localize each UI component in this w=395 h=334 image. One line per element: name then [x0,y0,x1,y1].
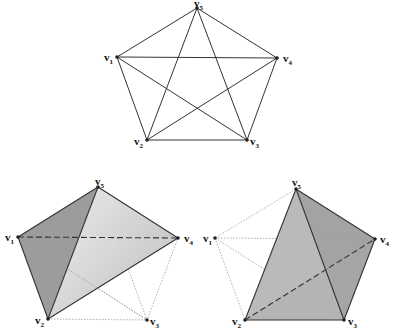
vertex-dot [176,236,180,240]
vertex-label: v1 [104,51,114,66]
vertex-label: v3 [348,315,358,330]
vertex-dot [115,55,119,59]
tetrahedron-right [215,189,375,320]
vertex-dot [342,318,346,322]
vertex-dot [275,56,279,60]
vertex-label: v2 [134,135,144,150]
vertex-label: v2 [232,315,242,330]
vertex-dot [145,138,149,142]
vertex-label: v2 [35,314,45,329]
vertex-dot [16,235,20,239]
vertex-label: v4 [184,232,194,247]
vertex-dot [373,237,377,241]
vertex-label: v3 [250,135,260,150]
vertex-dot [243,318,247,322]
vertex-dot [145,318,149,322]
vertex-dot [245,138,249,142]
vertex-label: v5 [292,176,302,191]
vertex-label: v3 [150,315,160,330]
vertex-dot [213,236,217,240]
vertex-label: v1 [5,231,15,246]
vertex-label: v1 [203,232,213,247]
diagram-canvas: v1v2v3v4v5v1v2v3v4v5v1v2v3v4v5 [0,0,395,334]
vertex-label: v4 [283,52,293,67]
complete-graph-k5 [117,8,277,140]
vertex-label: v5 [194,0,204,12]
vertex-label: v4 [380,233,390,248]
vertex-dot [46,317,50,321]
tetrahedron-left [18,187,178,320]
